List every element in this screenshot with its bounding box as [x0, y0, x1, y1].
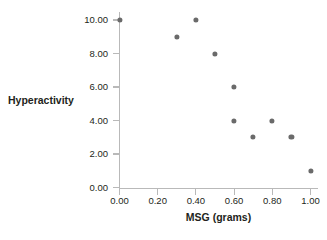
data-point	[232, 84, 237, 89]
y-axis-tick	[113, 19, 119, 20]
x-axis-tick-label: 0.40	[176, 196, 216, 206]
x-axis-tick-label: 0.80	[252, 196, 292, 206]
y-axis-tick-label-text: 10.00	[62, 15, 108, 25]
x-axis-tick-label: 0.20	[138, 196, 178, 206]
y-axis-tick-label-text: 0.00	[62, 183, 108, 193]
data-point	[212, 51, 217, 56]
data-point	[289, 135, 294, 140]
y-axis-tick	[113, 53, 119, 54]
data-point	[251, 135, 256, 140]
y-axis-tick	[113, 187, 119, 188]
y-axis-tick-label-text: 2.00	[62, 149, 108, 159]
y-axis-tick-label-text: 8.00	[62, 49, 108, 59]
y-axis-line	[119, 12, 120, 188]
x-axis-title: MSG (grams)	[119, 211, 318, 223]
data-point	[193, 17, 198, 22]
data-point	[308, 168, 313, 173]
y-axis-tick	[113, 153, 119, 154]
y-axis-tick	[113, 120, 119, 121]
x-axis-tick-label: 0.60	[214, 196, 254, 206]
x-axis-tick-label: 1.00	[291, 196, 327, 206]
y-axis-tick-label-text: 6.00	[62, 82, 108, 92]
data-point	[270, 118, 275, 123]
scatter-chart: 10.008.006.004.002.000.00 0.000.200.400.…	[0, 0, 327, 240]
y-axis-tick	[113, 86, 119, 87]
data-point	[174, 34, 179, 39]
data-point	[232, 118, 237, 123]
x-axis-line	[119, 188, 318, 189]
y-axis-tick-label-text: 4.00	[62, 116, 108, 126]
x-axis-tick-label: 0.00	[100, 196, 140, 206]
y-axis-title: Hyperactivity	[8, 94, 88, 106]
